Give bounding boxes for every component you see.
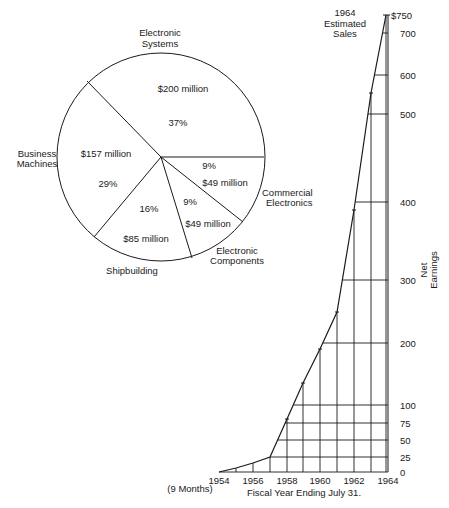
label-shipbuilding: Shipbuilding xyxy=(106,265,158,276)
pct-business-machines: 29% xyxy=(98,178,118,189)
label-electronic-systems-2: Systems xyxy=(142,38,179,49)
earnings-line xyxy=(219,15,386,472)
pct-electronic-systems: 37% xyxy=(168,117,188,128)
annotation-year: 1964 xyxy=(334,7,355,18)
x-tick-label: 1956 xyxy=(242,475,263,486)
value-electronic-components: $49 million xyxy=(185,218,230,229)
figure: Electronic Systems Business Machines Com… xyxy=(0,0,449,508)
pie-chart: Electronic Systems Business Machines Com… xyxy=(17,27,313,276)
chart-canvas: Electronic Systems Business Machines Com… xyxy=(0,0,449,508)
value-shipbuilding: $85 million xyxy=(123,233,168,244)
x-tick-label: 1964 xyxy=(377,475,398,486)
y-axis-title-line-2: Earnings xyxy=(428,251,439,289)
vertical-gridlines xyxy=(236,15,390,472)
x-axis-tick-labels: 195419561958196019621964 xyxy=(208,475,398,486)
y-tick-label: 700 xyxy=(400,28,416,39)
label-electronic-components-2: Components xyxy=(210,255,264,266)
y-tick-label: 500 xyxy=(400,109,416,120)
y-axis-title: Net Earnings xyxy=(418,251,439,289)
y-axis-tick-labels: 0255075100200300400500600700$750 xyxy=(391,10,416,478)
label-business-machines-2: Machines xyxy=(17,158,58,169)
x-axis-note: (9 Months) xyxy=(167,483,212,494)
pct-shipbuilding: 16% xyxy=(139,203,159,214)
pie-divider xyxy=(87,81,161,157)
y-tick-label: 400 xyxy=(400,197,416,208)
y-tick-label: 200 xyxy=(400,338,416,349)
y-tick-label: 300 xyxy=(400,275,416,286)
value-commercial-electronics: $49 million xyxy=(202,177,247,188)
label-commercial-electronics-2: Electronics xyxy=(266,197,313,208)
y-tick-label: 100 xyxy=(400,400,416,411)
value-electronic-systems: $200 million xyxy=(158,83,209,94)
y-tick-label: 50 xyxy=(400,435,411,446)
pct-commercial-electronics: 9% xyxy=(202,160,216,171)
y-tick-label: 0 xyxy=(400,467,405,478)
value-business-machines: $157 million xyxy=(81,148,132,159)
y-tick-label: $750 xyxy=(391,10,412,21)
pct-electronic-components: 9% xyxy=(183,196,197,207)
x-axis-title: Fiscal Year Ending July 31. xyxy=(247,487,361,498)
pie-divider xyxy=(94,157,161,237)
x-tick-label: 1962 xyxy=(343,475,364,486)
annotation-sales: Sales xyxy=(333,28,357,39)
earnings-line-chart: 0255075100200300400500600700$750 1954195… xyxy=(167,7,439,498)
x-tick-label: 1960 xyxy=(309,475,330,486)
y-tick-label: 600 xyxy=(400,70,416,81)
pie-dividers xyxy=(87,81,264,258)
y-tick-label: 75 xyxy=(400,418,411,429)
x-tick-label: 1958 xyxy=(276,475,297,486)
y-tick-label: 25 xyxy=(400,452,411,463)
label-electronic-systems-1: Electronic xyxy=(139,27,181,38)
data-point-markers xyxy=(285,93,373,419)
